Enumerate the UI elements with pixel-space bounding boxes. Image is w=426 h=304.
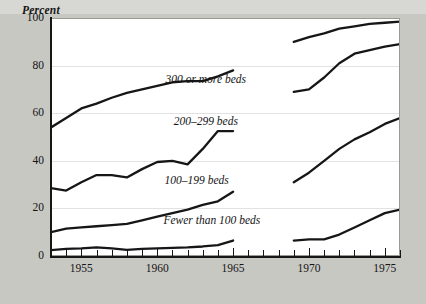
y-tick-label: 80 [10,60,44,72]
x-tick-label: 1955 [58,262,104,274]
series-label: 200–299 beds [174,115,238,127]
x-tick-minor [400,250,401,256]
x-axis-line [50,256,401,258]
x-tick-minor [324,250,325,256]
y-tick-label: 20 [10,202,44,214]
x-tick-major [385,248,386,256]
top-band [0,0,426,14]
series-line [294,118,400,182]
series-line [294,22,400,42]
x-tick-major [233,248,234,256]
x-tick-major [309,248,310,256]
x-tick-minor [248,250,249,256]
chart-figure: Percent 020406080100 1955196019651970197… [0,0,426,304]
x-tick-minor [127,250,128,256]
x-tick-minor [370,250,371,256]
x-tick-minor [112,250,113,256]
x-tick-minor [263,250,264,256]
series-label: 300 or more beds [166,73,246,85]
y-tick-label: 0 [10,250,44,262]
x-tick-minor [97,250,98,256]
x-tick-label: 1975 [362,262,408,274]
x-tick-minor [339,250,340,256]
series-line [51,241,233,251]
x-tick-minor [172,250,173,256]
series-label: Fewer than 100 beds [163,214,260,226]
x-tick-label: 1965 [210,262,256,274]
x-tick-minor [294,250,295,256]
y-tick-label: 40 [10,155,44,167]
x-tick-minor [66,250,67,256]
series-line [294,44,400,92]
series-label: 100–199 beds [165,174,229,186]
series-line [294,210,400,241]
x-tick-label: 1970 [286,262,332,274]
x-tick-label: 1960 [134,262,180,274]
x-tick-minor [279,250,280,256]
y-axis-line [50,17,52,258]
x-tick-minor [203,250,204,256]
x-tick-minor [218,250,219,256]
x-tick-major [81,248,82,256]
x-tick-minor [354,250,355,256]
x-tick-major [157,248,158,256]
y-axis-tick-labels: 020406080100 [10,0,44,304]
x-tick-minor [188,250,189,256]
y-tick-label: 100 [10,12,44,24]
x-tick-minor [51,250,52,256]
x-tick-minor [142,250,143,256]
y-tick-label: 60 [10,107,44,119]
